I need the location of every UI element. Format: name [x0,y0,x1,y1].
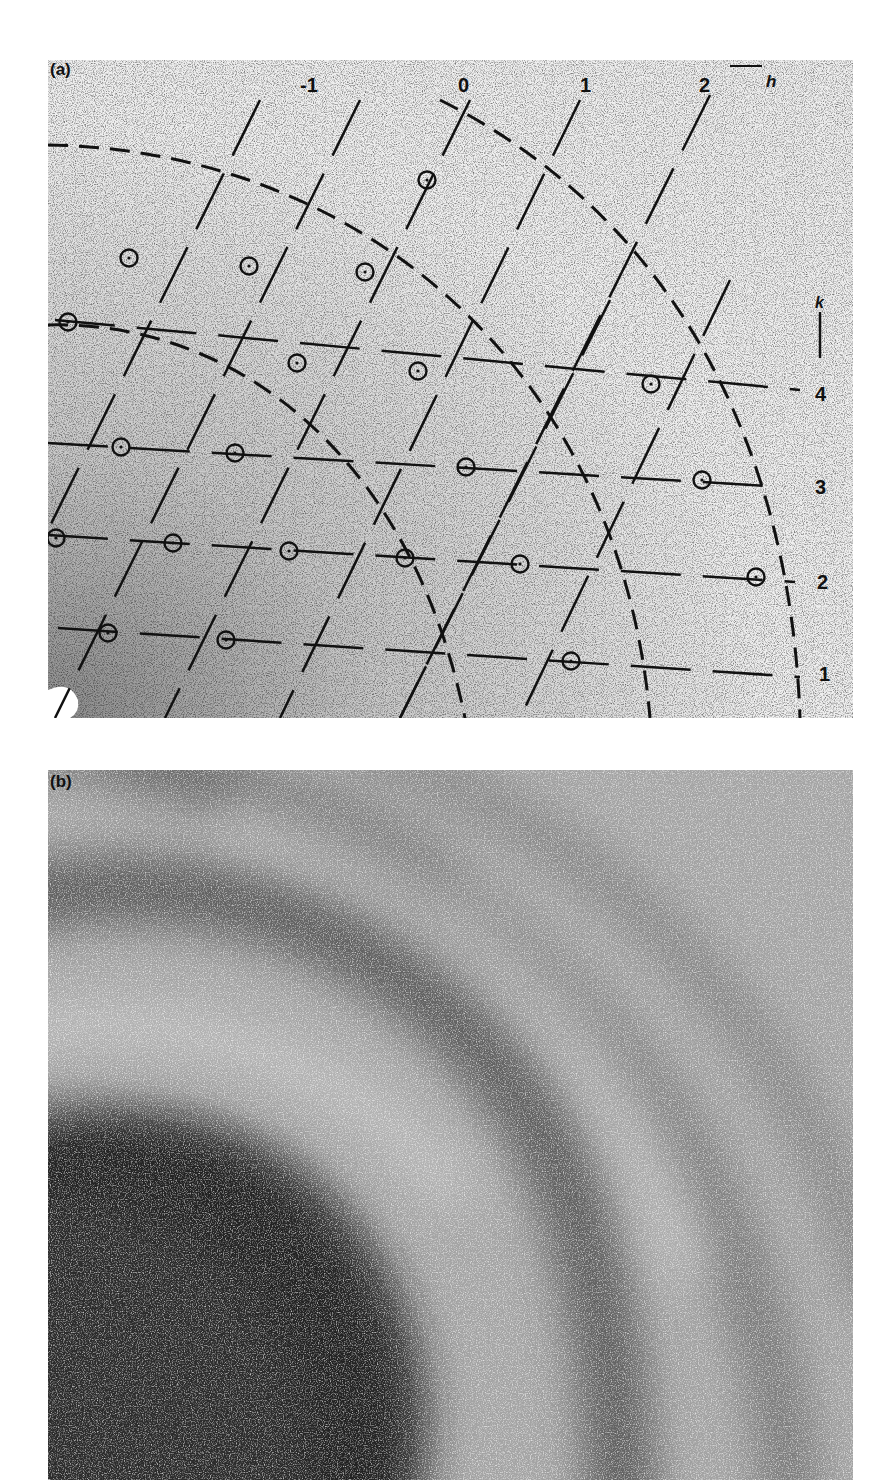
diffuse-pattern [48,770,853,1480]
h-axis-label: h [766,72,776,92]
h-index-label: -1 [300,74,318,97]
h-index-label: 1 [580,74,591,97]
k-index-label: 4 [815,383,826,406]
diffraction-panel-b: (b) [48,770,853,1480]
k-index-label: 2 [817,571,828,594]
k-index-label: 1 [819,663,830,686]
panel-label-b: (b) [50,772,72,792]
panel-label-a: (a) [50,60,71,80]
k-axis-label: k [815,294,824,312]
h-index-label: 0 [458,74,469,97]
lattice-overlay [48,60,853,718]
diffraction-panel-a: (a) -1 0 1 2 h k 4 3 2 1 [48,60,853,718]
h-index-label: 2 [699,74,710,97]
k-index-label: 3 [815,476,826,499]
